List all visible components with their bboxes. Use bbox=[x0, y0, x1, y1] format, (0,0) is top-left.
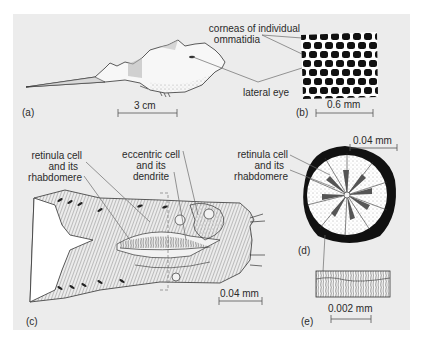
callout-d-retinula-line1: retinula cell bbox=[220, 149, 288, 160]
callout-cornea-line2: ommatidia bbox=[160, 34, 260, 45]
callout-eccentric-line3: dendrite bbox=[118, 171, 184, 182]
callout-c-retinula-line2: and its bbox=[10, 161, 78, 172]
panel-label-c: (c) bbox=[26, 316, 38, 327]
horseshoe-crab-drawing bbox=[26, 40, 225, 97]
panel-label-e: (e) bbox=[301, 316, 313, 327]
panel-label-d: (d) bbox=[298, 245, 310, 256]
scale-label-a: 3 cm bbox=[134, 100, 156, 111]
callout-eccentric-line1: eccentric cell bbox=[118, 149, 184, 160]
scale-label-c: 0.04 mm bbox=[220, 288, 259, 299]
scale-label-e: 0.002 mm bbox=[328, 303, 372, 314]
panel-label-a: (a) bbox=[22, 107, 34, 118]
callout-d-retinula-line2: and its bbox=[220, 160, 284, 171]
ommatidium-cross-section bbox=[303, 146, 396, 243]
panel-label-b: (b) bbox=[296, 107, 308, 118]
callout-lateral-eye: lateral eye bbox=[243, 87, 289, 98]
ommatidium-longitudinal-section bbox=[30, 190, 265, 302]
callout-d-retinula-line3: rhabdomere bbox=[220, 171, 288, 182]
callout-cornea-line1: corneas of individual bbox=[160, 23, 300, 34]
scale-bar-e bbox=[331, 315, 371, 323]
rhabdomere-microvilli-drawing bbox=[316, 271, 390, 297]
callout-c-retinula-line3: rhabdomere bbox=[10, 172, 82, 183]
scale-label-d: 0.04 mm bbox=[353, 135, 392, 146]
scale-label-b: 0.6 mm bbox=[327, 99, 360, 110]
scale-bar-b bbox=[316, 109, 373, 117]
callout-eccentric-line2: and its bbox=[118, 160, 184, 171]
cornea-lattice-drawing bbox=[298, 32, 388, 103]
callout-c-retinula-line1: retinula cell bbox=[10, 150, 82, 161]
